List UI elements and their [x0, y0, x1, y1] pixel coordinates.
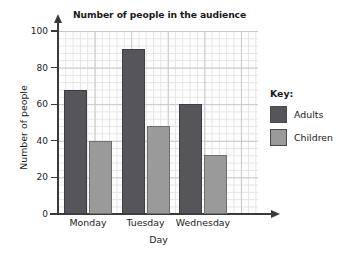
y-axis-title: Number of people: [18, 68, 29, 188]
chart-title: Number of people in the audience: [73, 9, 246, 20]
bar-tuesday-adults: [122, 49, 145, 214]
y-axis-tick-label: 0: [42, 209, 48, 219]
y-axis-tick: [51, 140, 58, 141]
y-axis-tick-label: 40: [37, 136, 48, 146]
legend-label-adults: Adults: [294, 109, 323, 120]
legend: Key: AdultsChildren: [270, 88, 356, 152]
y-axis-tick: [51, 30, 58, 31]
bar-monday-adults: [64, 90, 87, 214]
x-axis-label-tuesday: Tuesday: [126, 217, 164, 228]
y-axis-arrow-icon: [54, 14, 62, 23]
legend-rows: AdultsChildren: [270, 106, 356, 146]
y-axis-tick: [51, 177, 58, 178]
legend-item-children: Children: [270, 129, 356, 146]
y-axis-tick-label: 60: [37, 99, 48, 109]
x-axis-label-monday: Monday: [69, 217, 106, 228]
y-axis-tick: [51, 213, 58, 214]
y-axis-line: [57, 22, 59, 214]
legend-swatch-children: [270, 129, 287, 146]
bar-wednesday-adults: [179, 104, 202, 214]
x-axis-arrow-icon: [271, 210, 280, 218]
bar-wednesday-children: [204, 155, 227, 214]
y-axis-tick-label: 100: [31, 26, 48, 36]
x-axis-title: Day: [0, 234, 317, 245]
legend-title: Key:: [270, 88, 356, 99]
bar-monday-children: [89, 141, 112, 214]
y-axis-tick: [51, 104, 58, 105]
y-axis-tick-label: 20: [37, 172, 48, 182]
bar-tuesday-children: [147, 126, 170, 214]
y-axis-tick: [51, 67, 58, 68]
x-axis-label-wednesday: Wednesday: [176, 217, 230, 228]
y-axis-tick-label: 80: [37, 63, 48, 73]
legend-swatch-adults: [270, 106, 287, 123]
legend-item-adults: Adults: [270, 106, 356, 123]
legend-label-children: Children: [294, 132, 333, 143]
bar-chart-figure: Number of people in the audience Number …: [0, 0, 359, 257]
